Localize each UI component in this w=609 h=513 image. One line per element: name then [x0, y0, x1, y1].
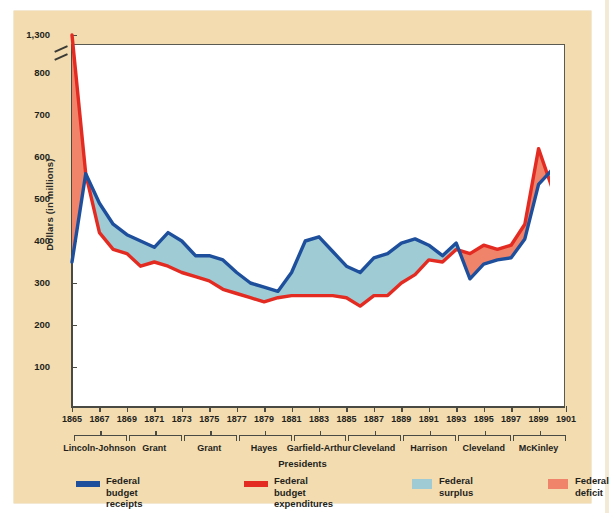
surplus-fill — [548, 161, 566, 188]
series-group — [72, 35, 566, 306]
